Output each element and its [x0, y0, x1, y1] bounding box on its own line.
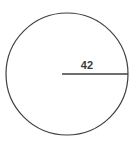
- diagram-background: [0, 0, 137, 151]
- circle-diagram: 42: [0, 0, 137, 151]
- radius-label: 42: [81, 59, 94, 71]
- diagram-canvas: 42: [0, 0, 137, 151]
